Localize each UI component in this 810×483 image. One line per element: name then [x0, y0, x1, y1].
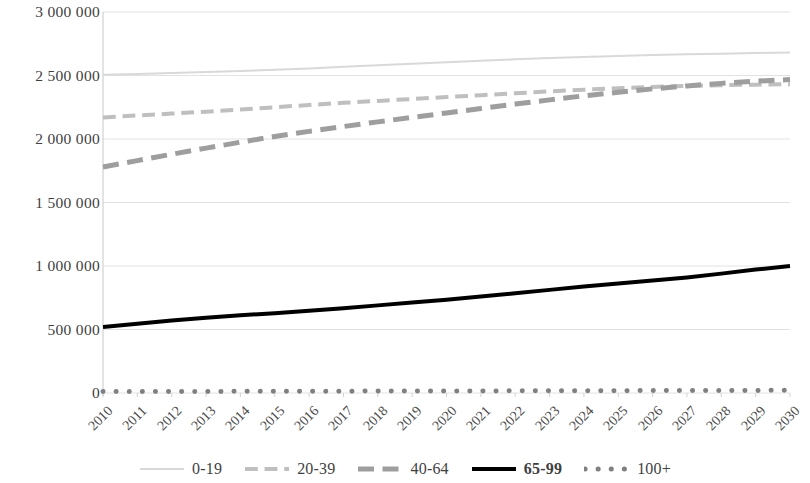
legend-item-0-19[interactable]: 0-19 — [139, 460, 222, 478]
population-line-chart: 3 000 0002 500 0002 000 0001 500 0001 00… — [0, 0, 810, 483]
x-axis: 2010201120122013201420152016201720182019… — [0, 0, 810, 483]
legend-swatch-100+ — [584, 463, 630, 475]
x-tick-label-2014: 2014 — [216, 403, 254, 441]
legend-swatch-20-39 — [244, 463, 290, 475]
legend-item-20-39[interactable]: 20-39 — [244, 460, 335, 478]
x-tick-label-2030: 2030 — [765, 403, 803, 441]
x-tick-label-2025: 2025 — [593, 403, 631, 441]
x-tick-label-2024: 2024 — [559, 403, 597, 441]
x-tick-label-2023: 2023 — [525, 403, 563, 441]
legend-label-65-99: 65-99 — [524, 460, 562, 478]
legend-label-100+: 100+ — [637, 460, 671, 478]
x-tick-label-2015: 2015 — [250, 403, 288, 441]
x-tick-label-2027: 2027 — [662, 403, 700, 441]
legend-item-65-99[interactable]: 65-99 — [471, 460, 562, 478]
legend-item-40-64[interactable]: 40-64 — [357, 460, 448, 478]
legend-swatch-65-99 — [471, 463, 517, 475]
x-tick-label-2026: 2026 — [628, 403, 666, 441]
x-tick-label-2017: 2017 — [319, 403, 357, 441]
legend-swatch-40-64 — [357, 463, 403, 475]
x-tick-label-2018: 2018 — [353, 403, 391, 441]
legend-swatch-0-19 — [139, 463, 185, 475]
x-tick-label-2021: 2021 — [456, 403, 494, 441]
chart-legend: 0-1920-3940-6465-99100+ — [0, 455, 810, 483]
x-tick-label-2016: 2016 — [284, 403, 322, 441]
x-tick-label-2013: 2013 — [181, 403, 219, 441]
x-tick-label-2020: 2020 — [422, 403, 460, 441]
x-tick-label-2011: 2011 — [112, 403, 150, 441]
legend-item-100+[interactable]: 100+ — [584, 460, 671, 478]
x-tick-label-2028: 2028 — [696, 403, 734, 441]
x-tick-label-2010: 2010 — [78, 403, 116, 441]
legend-label-0-19: 0-19 — [192, 460, 222, 478]
x-tick-label-2012: 2012 — [147, 403, 185, 441]
x-tick-label-2019: 2019 — [387, 403, 425, 441]
x-tick-label-2022: 2022 — [490, 403, 528, 441]
legend-label-40-64: 40-64 — [410, 460, 448, 478]
legend-label-20-39: 20-39 — [297, 460, 335, 478]
x-tick-label-2029: 2029 — [731, 403, 769, 441]
